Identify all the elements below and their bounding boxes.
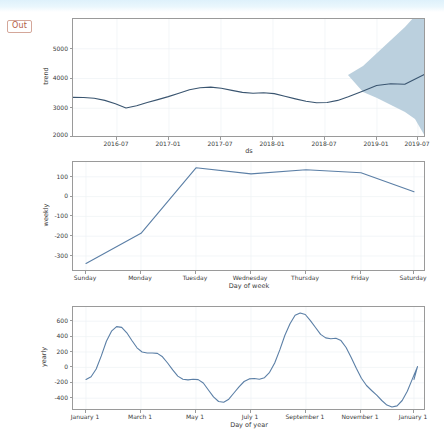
yearly-ytick-200: 200 bbox=[38, 348, 68, 355]
weekly-xtick-wednesday: Wednesday bbox=[222, 274, 278, 281]
yearly-xtick-3: July 1 bbox=[226, 413, 274, 420]
weekly-xtick-sunday: Sunday bbox=[61, 274, 109, 281]
trend-xtick-6: 2019-07 bbox=[393, 140, 441, 147]
yearly-xtick-4: September 1 bbox=[277, 413, 333, 420]
trend-ytickmark bbox=[70, 107, 73, 108]
weekly-ytick-100: 100 bbox=[38, 173, 68, 180]
trend-ytickmark bbox=[70, 78, 73, 79]
trend-xtick-2: 2017-07 bbox=[196, 140, 244, 147]
chart-panel-trend: trend 5000 4000 3000 2000 2016-07 2017-0… bbox=[0, 12, 444, 147]
weekly-xtick-saturday: Saturday bbox=[389, 274, 437, 281]
weekly-xtick-friday: Friday bbox=[336, 274, 384, 281]
trend-uncertainty-band bbox=[348, 19, 425, 137]
yearly-xtick-6: January 1 bbox=[389, 413, 437, 420]
yearly-xtick-5: November 1 bbox=[334, 413, 386, 420]
trend-ytickmark bbox=[70, 48, 73, 49]
yearly-ytickmark bbox=[70, 320, 73, 321]
yearly-xlabel: Day of year bbox=[214, 421, 284, 429]
yearly-ytick-400: 400 bbox=[38, 332, 68, 339]
yearly-xtick-2: May 1 bbox=[171, 413, 219, 420]
weekly-ytickmark bbox=[70, 196, 73, 197]
trend-xtick-3: 2018-01 bbox=[248, 140, 296, 147]
weekly-ytick--200: -200 bbox=[34, 232, 68, 239]
weekly-ytickmark bbox=[70, 235, 73, 236]
yearly-xtick-1: March 1 bbox=[116, 413, 164, 420]
weekly-ytickmark bbox=[70, 215, 73, 216]
yearly-line bbox=[86, 313, 418, 407]
weekly-xtick-tuesday: Tuesday bbox=[171, 274, 219, 281]
yearly-ytickmark bbox=[70, 382, 73, 383]
yearly-xtick-0: January 1 bbox=[61, 413, 109, 420]
weekly-plot-svg bbox=[73, 162, 425, 271]
trend-plot-svg bbox=[73, 19, 425, 137]
weekly-ytick--300: -300 bbox=[34, 252, 68, 259]
weekly-ytickmark bbox=[70, 176, 73, 177]
trend-ytickmark bbox=[70, 136, 73, 137]
notebook-output-cell: Out bbox=[0, 0, 444, 433]
yearly-ytick--400: -400 bbox=[34, 394, 68, 401]
chart-panel-weekly: weekly 100 0 -100 -200 -300 Sunday Monda… bbox=[0, 155, 444, 292]
trend-xtick-4: 2018-07 bbox=[300, 140, 348, 147]
weekly-ytick--100: -100 bbox=[34, 212, 68, 219]
weekly-xlabel: Day of week bbox=[212, 282, 286, 290]
trend-ytick-5000: 5000 bbox=[36, 45, 68, 52]
trend-xlabel: ds bbox=[224, 147, 274, 155]
yearly-ytick-0: 0 bbox=[38, 363, 68, 370]
trend-axes bbox=[72, 18, 425, 137]
trend-ytick-2000: 2000 bbox=[36, 131, 68, 138]
weekly-xtick-monday: Monday bbox=[116, 274, 164, 281]
yearly-ytick-600: 600 bbox=[38, 317, 68, 324]
yearly-ytickmark bbox=[70, 351, 73, 352]
weekly-axes bbox=[72, 161, 425, 271]
weekly-ytickmark bbox=[70, 255, 73, 256]
yearly-ytick--200: -200 bbox=[34, 378, 68, 385]
yearly-ytickmark bbox=[70, 366, 73, 367]
weekly-xtick-thursday: Thursday bbox=[281, 274, 329, 281]
prophet-components-figure: trend 5000 4000 3000 2000 2016-07 2017-0… bbox=[0, 12, 444, 433]
yearly-plot-svg bbox=[73, 307, 425, 410]
trend-xtick-0: 2016-07 bbox=[92, 140, 140, 147]
chart-panel-yearly: yearly 600 400 200 0 -200 -400 January 1… bbox=[0, 300, 444, 433]
weekly-line bbox=[86, 168, 414, 264]
trend-ytick-4000: 4000 bbox=[36, 74, 68, 81]
yearly-axes bbox=[72, 306, 425, 410]
weekly-ytick-0: 0 bbox=[38, 192, 68, 199]
weekly-gridlines bbox=[73, 162, 425, 271]
trend-ytick-3000: 3000 bbox=[36, 104, 68, 111]
notebook-top-band bbox=[0, 0, 444, 12]
trend-xtick-1: 2017-01 bbox=[144, 140, 192, 147]
yearly-ytickmark bbox=[70, 397, 73, 398]
yearly-ylabel: yearly bbox=[40, 335, 48, 379]
yearly-ytickmark bbox=[70, 336, 73, 337]
yearly-gridlines bbox=[73, 307, 425, 410]
